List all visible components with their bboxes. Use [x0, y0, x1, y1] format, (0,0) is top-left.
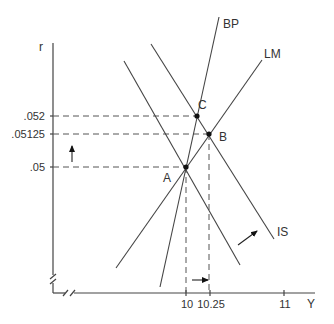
lm-curve [116, 60, 262, 268]
is-label: IS [277, 225, 288, 239]
y-axis-label: r [39, 40, 43, 54]
point-c [194, 113, 199, 118]
point-a [183, 164, 188, 169]
bp-label: BP [223, 17, 239, 31]
y-tick-05: .05 [30, 161, 45, 173]
y-tick-05125: .05125 [11, 128, 45, 140]
point-b-label: B [219, 130, 227, 144]
point-b [206, 131, 211, 136]
x-axis [50, 116, 315, 296]
y-axis [50, 43, 56, 293]
x-tick-10-25: 10.25 [197, 298, 225, 310]
is-curve-initial [124, 61, 240, 265]
guide-lines [53, 116, 209, 293]
y-tick-052: .052 [24, 110, 45, 122]
lm-label: LM [264, 47, 281, 61]
point-a-label: A [163, 171, 171, 185]
x-tick-10: 10 [181, 298, 193, 310]
x-tick-11: 11 [279, 298, 290, 310]
x-axis-label: Y [307, 297, 315, 311]
is-shift-arrow-icon [238, 231, 257, 245]
is-lm-bp-diagram: r Y .052 .05125 .05 10 10.25 11 BP LM IS [0, 0, 334, 324]
bp-curve [160, 17, 219, 287]
point-c-label: C [198, 98, 207, 112]
